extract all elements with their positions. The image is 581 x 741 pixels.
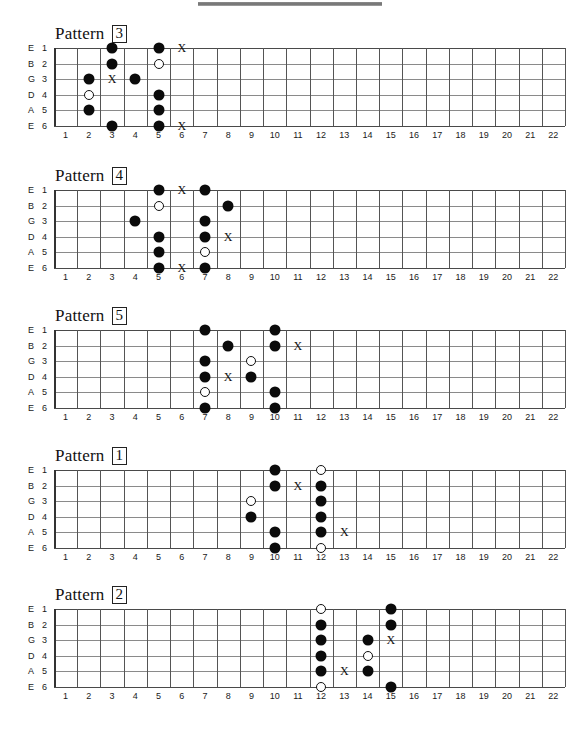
string-name-label: D xyxy=(28,91,35,100)
marker-cross: X xyxy=(294,340,303,352)
fret-number-label: 3 xyxy=(110,691,115,701)
fret-number-label: 15 xyxy=(386,691,396,701)
string-name-label: D xyxy=(28,513,35,522)
fret-line xyxy=(240,609,241,687)
string-label-column: E1B2G3D4A5E6 xyxy=(28,48,54,126)
fretboard-grid: XX xyxy=(54,609,565,687)
string-name-label: E xyxy=(28,44,34,53)
fret-line xyxy=(472,330,473,408)
marker-filled-dot xyxy=(153,247,164,258)
pattern-title: Pattern4 xyxy=(55,166,127,186)
fret-line xyxy=(193,190,194,268)
marker-filled-dot xyxy=(269,465,280,476)
fret-line xyxy=(519,48,520,126)
fretboard-diagram: E1B2G3D4A5E6XX12345678910111213141516171… xyxy=(0,609,581,714)
marker-filled-dot xyxy=(199,216,210,227)
fret-line xyxy=(77,190,78,268)
fret-number-label: 10 xyxy=(270,130,280,140)
nut-line xyxy=(54,609,56,687)
fret-line xyxy=(356,609,357,687)
fret-number-label: 21 xyxy=(525,412,535,422)
marker-filled-dot xyxy=(199,231,210,242)
fret-line xyxy=(124,330,125,408)
string-name-label: B xyxy=(28,342,34,351)
fret-number-label: 17 xyxy=(432,412,442,422)
fret-number-label: 19 xyxy=(479,412,489,422)
fret-number-label: 1 xyxy=(63,412,68,422)
fret-number-label: 22 xyxy=(548,412,558,422)
fret-number-label: 18 xyxy=(455,412,465,422)
fret-line xyxy=(402,330,403,408)
fret-number-label: 11 xyxy=(293,412,302,422)
string-name-label: B xyxy=(28,621,34,630)
pattern-title-word: Pattern xyxy=(55,306,105,325)
marker-open-circle xyxy=(246,356,256,366)
string-label-column: E1B2G3D4A5E6 xyxy=(28,330,54,408)
fretboard-diagram: E1B2G3D4A5E6XXX1234567891011121314151617… xyxy=(0,190,581,295)
fret-line xyxy=(426,330,427,408)
string-number-label: 2 xyxy=(42,342,47,351)
marker-filled-dot xyxy=(153,231,164,242)
fret-line xyxy=(426,48,427,126)
fret-line xyxy=(333,48,334,126)
fret-line xyxy=(77,330,78,408)
fret-line xyxy=(286,48,287,126)
string-name-label: G xyxy=(28,217,35,226)
marker-filled-dot xyxy=(316,480,327,491)
marker-filled-dot xyxy=(153,43,164,54)
fret-number-label: 21 xyxy=(525,272,535,282)
string-number-label: 1 xyxy=(42,326,47,335)
fret-line xyxy=(310,190,311,268)
nut-line xyxy=(54,470,56,548)
fret-number-label: 22 xyxy=(548,552,558,562)
fret-number-label: 2 xyxy=(86,691,91,701)
marker-filled-dot xyxy=(269,480,280,491)
fret-line xyxy=(77,609,78,687)
fret-number-label: 14 xyxy=(363,552,373,562)
marker-filled-dot xyxy=(223,340,234,351)
string-label-column: E1B2G3D4A5E6 xyxy=(28,190,54,268)
fret-line xyxy=(379,470,380,548)
fret-line xyxy=(100,470,101,548)
string-name-label: E xyxy=(28,326,34,335)
marker-cross: X xyxy=(294,480,303,492)
marker-filled-dot xyxy=(269,387,280,398)
fret-number-label: 20 xyxy=(502,552,512,562)
string-line xyxy=(54,126,565,127)
fret-number-label: 9 xyxy=(249,412,254,422)
fret-number-label: 17 xyxy=(432,691,442,701)
fret-number-label: 4 xyxy=(133,272,138,282)
fret-line xyxy=(402,48,403,126)
marker-filled-dot xyxy=(316,619,327,630)
fret-line xyxy=(542,470,543,548)
fret-number-label: 1 xyxy=(63,691,68,701)
fret-line xyxy=(519,330,520,408)
fret-line xyxy=(240,190,241,268)
marker-filled-dot xyxy=(269,527,280,538)
marker-filled-dot xyxy=(153,105,164,116)
fret-number-row: 12345678910111213141516171819202122 xyxy=(54,412,565,426)
marker-filled-dot xyxy=(316,666,327,677)
fret-number-label: 9 xyxy=(249,272,254,282)
marker-cross: X xyxy=(108,73,117,85)
fret-line xyxy=(100,330,101,408)
string-name-label: A xyxy=(28,248,34,257)
fret-number-label: 19 xyxy=(479,691,489,701)
fret-line xyxy=(449,470,450,548)
fret-line xyxy=(426,190,427,268)
string-number-label: 2 xyxy=(42,621,47,630)
pattern-title: Pattern3 xyxy=(55,24,127,44)
marker-open-circle xyxy=(316,465,326,475)
fretboard-grid: XXX xyxy=(54,190,565,268)
fret-number-label: 2 xyxy=(86,130,91,140)
fret-line xyxy=(565,470,566,548)
fret-number-label: 11 xyxy=(293,130,302,140)
top-divider-bar xyxy=(198,2,382,6)
fret-number-label: 1 xyxy=(63,272,68,282)
fret-line xyxy=(147,330,148,408)
fret-number-label: 5 xyxy=(156,412,161,422)
fret-line xyxy=(565,190,566,268)
string-label-column: E1B2G3D4A5E6 xyxy=(28,470,54,548)
marker-filled-dot xyxy=(246,511,257,522)
fret-number-label: 2 xyxy=(86,552,91,562)
